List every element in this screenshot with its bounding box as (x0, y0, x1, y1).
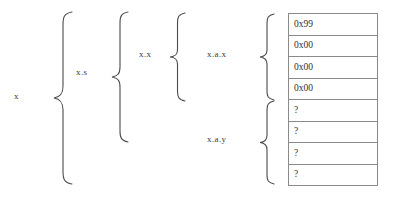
label-x-a-x: x.a.x (207, 50, 227, 59)
table-row: ? (289, 122, 377, 144)
label-x: x (14, 92, 19, 101)
byte-table: 0x99 0x00 0x00 0x00 ? ? ? ? (288, 13, 378, 186)
table-row: ? (289, 165, 377, 186)
byte-value: 0x00 (294, 41, 313, 51)
label-x-s: x.s (76, 68, 87, 77)
table-row: 0x00 (289, 36, 377, 58)
memory-layout-diagram: x x.s x.x x.a.x x.a.y 0 (0, 0, 398, 199)
byte-value: ? (294, 149, 298, 159)
byte-value: ? (294, 127, 298, 137)
label-x-x: x.x (139, 50, 151, 59)
byte-value: 0x99 (294, 20, 313, 30)
table-row: ? (289, 100, 377, 122)
byte-value: 0x00 (294, 84, 313, 94)
brace-level-1 (52, 10, 74, 186)
byte-value: ? (294, 170, 298, 180)
brace-level-4-top (258, 12, 276, 102)
table-row: 0x99 (289, 14, 377, 36)
table-row: ? (289, 143, 377, 165)
byte-value: ? (294, 106, 298, 116)
brace-level-3 (168, 11, 187, 103)
table-row: 0x00 (289, 57, 377, 79)
byte-value: 0x00 (294, 63, 313, 73)
table-row: 0x00 (289, 79, 377, 101)
brace-level-2 (110, 10, 130, 144)
label-x-a-y: x.a.y (207, 135, 227, 144)
brace-level-4-bottom (258, 99, 276, 186)
